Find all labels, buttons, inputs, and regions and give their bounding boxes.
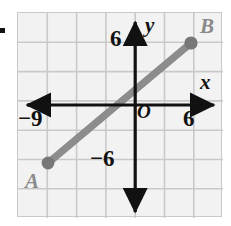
y-tick-label-6: 6 [110,27,122,50]
y-axis-label: y [145,15,154,36]
x-tick-label-6: 6 [183,107,195,130]
point-a-label: A [25,171,39,192]
x-axis-label: x [200,72,211,93]
bullet-marker [0,28,5,33]
y-tick-label-minus-6: −6 [90,147,115,170]
x-tick-label-minus-9: −9 [18,107,43,130]
origin-label: O [137,102,151,121]
point-b-label: B [200,16,214,37]
point-b-dot [184,36,197,49]
segment-ab [42,36,198,169]
point-a-dot [42,157,55,170]
figure-canvas: y x 6 −6 −9 6 O A B [0,0,231,226]
